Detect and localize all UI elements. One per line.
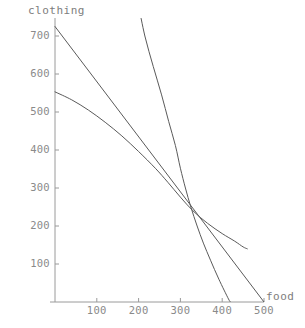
x-tick-label: 200 — [125, 304, 153, 316]
x-tick-label: 300 — [166, 304, 194, 316]
y-tick-label: 500 — [18, 105, 50, 117]
y-axis-label: clothing — [28, 4, 85, 17]
x-tick-label: 400 — [208, 304, 236, 316]
x-axis-label: food — [266, 290, 295, 303]
chart-canvas: clothing food 100200300400500600700 1002… — [0, 0, 305, 328]
chart-svg — [0, 0, 305, 328]
y-tick-label: 600 — [18, 67, 50, 79]
y-tick-label: 200 — [18, 219, 50, 231]
y-tick-label: 100 — [18, 257, 50, 269]
y-axis-ticks — [55, 36, 59, 264]
chart-series-group — [55, 6, 264, 302]
x-axis-ticks — [97, 298, 264, 302]
series-flat-indifference-curve — [55, 92, 247, 249]
x-tick-label: 100 — [83, 304, 111, 316]
x-tick-label: 500 — [250, 304, 278, 316]
series-steep-indifference-curve — [139, 6, 231, 302]
y-tick-label: 700 — [18, 29, 50, 41]
y-tick-label: 300 — [18, 181, 50, 193]
y-tick-label: 400 — [18, 143, 50, 155]
series-budget-line — [55, 27, 264, 303]
